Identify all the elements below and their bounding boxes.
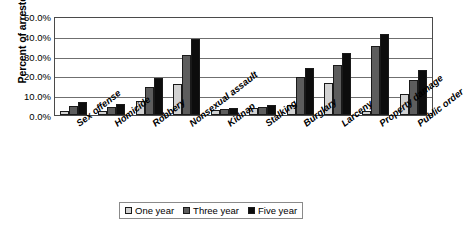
bar-group: [55, 18, 93, 115]
legend-label: One year: [135, 205, 174, 216]
y-axis-tick-label: 40.0%: [7, 31, 51, 42]
y-axis-tick-label: 20.0%: [7, 71, 51, 82]
bar: [342, 53, 351, 115]
bar: [60, 111, 69, 115]
bar: [107, 107, 116, 115]
bar: [191, 39, 200, 115]
x-axis-category-labels: Sex offenseHomicideRobberyNonsexual assa…: [54, 117, 433, 193]
legend-swatch: [248, 207, 255, 214]
legend-item: One year: [125, 205, 174, 216]
y-axis-tick-labels: 50.0%40.0%30.0%20.0%10.0%0.0%: [0, 0, 51, 238]
legend-item: Five year: [248, 205, 297, 216]
bar: [220, 109, 229, 115]
legend-label: Five year: [258, 205, 297, 216]
legend-swatch: [183, 207, 190, 214]
legend-label: Three year: [193, 205, 239, 216]
bar: [69, 106, 78, 115]
y-axis-tick-label: 0.0%: [7, 111, 51, 122]
y-axis-tick-label: 50.0%: [7, 12, 51, 23]
legend-item: Three year: [183, 205, 239, 216]
y-axis-tick-label: 30.0%: [7, 51, 51, 62]
bar: [305, 68, 314, 115]
legend-swatch: [125, 207, 132, 214]
y-axis-tick-label: 10.0%: [7, 91, 51, 102]
bar: [380, 34, 389, 115]
bar: [296, 77, 305, 115]
bar: [258, 107, 267, 115]
chart-legend: One yearThree yearFive year: [119, 202, 303, 219]
